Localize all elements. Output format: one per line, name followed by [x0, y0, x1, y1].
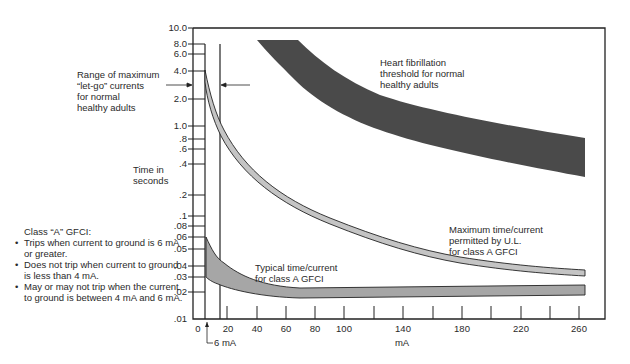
svg-text:Typical time/current: Typical time/current: [255, 262, 338, 273]
svg-text:healthy adults: healthy adults: [77, 102, 136, 113]
svg-text:“let-go” currents: “let-go” currents: [77, 80, 144, 91]
svg-text:60: 60: [281, 323, 292, 334]
svg-text:220: 220: [513, 323, 529, 334]
svg-text:6 mA: 6 mA: [214, 337, 237, 348]
svg-text:seconds: seconds: [133, 175, 169, 186]
svg-text:100: 100: [336, 323, 352, 334]
y-axis-title: Time in seconds: [133, 164, 169, 186]
fibrillation-label: Heart fibrillation threshold for normal …: [380, 57, 464, 90]
svg-text:6.0: 6.0: [174, 48, 187, 59]
x-tick-labels: 0 20 40 60 80 100 140 180 220 260: [195, 323, 587, 334]
svg-text:10.0: 10.0: [169, 22, 188, 33]
svg-text:for class A GFCI: for class A GFCI: [255, 273, 324, 284]
svg-text:healthy adults: healthy adults: [380, 79, 439, 90]
svg-text:Time in: Time in: [133, 164, 164, 175]
svg-text:2.0: 2.0: [174, 93, 187, 104]
svg-text:1.0: 1.0: [174, 120, 187, 131]
ul-label: Maximum time/current permitted by U.L. f…: [449, 224, 543, 257]
gfci-note-item: Trips when current to ground is 6 mA or …: [24, 237, 184, 259]
gfci-note: Class “A” GFCI: Trips when current to gr…: [14, 226, 184, 303]
svg-text:for normal: for normal: [77, 91, 120, 102]
svg-text:260: 260: [571, 323, 587, 334]
y-scale-rungs: [193, 54, 205, 292]
svg-text:.01: .01: [174, 313, 187, 324]
svg-text:4.0: 4.0: [174, 65, 187, 76]
typical-label: Typical time/current for class A GFCI: [255, 262, 338, 284]
svg-text:Range of maximum: Range of maximum: [77, 69, 159, 80]
gfci-chart: 10.0 8.0 6.0 4.0 2.0 1.0 .8 .6 .4 .2 .1 …: [0, 0, 630, 364]
gfci-note-title: Class “A” GFCI:: [14, 226, 184, 237]
svg-text:.4: .4: [179, 158, 187, 169]
svg-text:Heart fibrillation: Heart fibrillation: [380, 57, 446, 68]
x-ticks: [227, 306, 579, 319]
svg-text:permitted by U.L.: permitted by U.L.: [449, 235, 521, 246]
svg-text:.6: .6: [179, 143, 187, 154]
svg-text:80: 80: [310, 323, 321, 334]
svg-text:140: 140: [395, 323, 411, 334]
gfci-note-item: Does not trip when current to ground is …: [24, 259, 184, 281]
svg-text:20: 20: [223, 323, 234, 334]
let-go-label: Range of maximum “let-go” currents for n…: [77, 69, 159, 113]
svg-text:40: 40: [252, 323, 263, 334]
svg-text:0: 0: [195, 323, 200, 334]
svg-text:180: 180: [454, 323, 470, 334]
x-axis-title: mA: [395, 337, 410, 348]
svg-text:.2: .2: [179, 189, 187, 200]
svg-text:for class A GFCI: for class A GFCI: [449, 246, 518, 257]
svg-text:threshold for normal: threshold for normal: [380, 68, 464, 79]
gfci-note-item: May or may not trip when the current to …: [24, 281, 184, 303]
svg-text:Maximum time/current: Maximum time/current: [449, 224, 543, 235]
